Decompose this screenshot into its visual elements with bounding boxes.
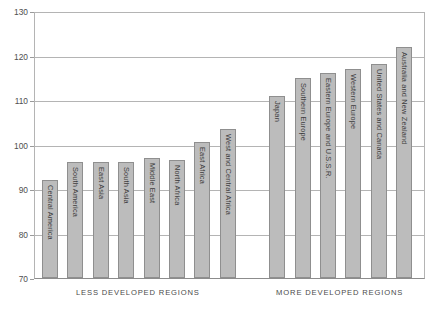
bar-label: Southern Europe — [299, 83, 306, 141]
bar[interactable]: South Asia — [118, 162, 134, 278]
bar[interactable]: Eastern Europe and U.S.S.R. — [320, 73, 336, 278]
bar-label: United States and Canada — [375, 69, 382, 159]
bar[interactable]: Middle East — [144, 158, 160, 278]
group-caption: MORE DEVELOPED REGIONS — [276, 288, 403, 297]
bar-label: Australia and New Zealand — [400, 52, 407, 145]
bar[interactable]: South America — [67, 162, 83, 278]
bar[interactable]: Japan — [269, 96, 285, 278]
bar-label: Eastern Europe and U.S.S.R. — [324, 78, 331, 179]
bar-label: North Africa — [173, 165, 180, 205]
bar[interactable]: North Africa — [169, 160, 185, 278]
y-tick-label: 100 — [6, 141, 28, 151]
bar-label: Japan — [273, 101, 280, 122]
bar[interactable]: East Asia — [93, 162, 109, 278]
bar[interactable]: Australia and New Zealand — [396, 47, 412, 278]
bar-label: West and Central Africa — [224, 134, 231, 215]
bar-label: South America — [72, 167, 79, 217]
y-tick-label: 90 — [6, 185, 28, 195]
y-tick-label: 70 — [6, 274, 28, 284]
bar-label: Western Europe — [350, 74, 357, 129]
bar-label: Central America — [46, 185, 53, 240]
plot-area: Central AmericaSouth AmericaEast AsiaSou… — [34, 12, 425, 279]
y-tick-label: 110 — [6, 96, 28, 106]
bar[interactable]: United States and Canada — [371, 64, 387, 278]
bar[interactable]: Central America — [42, 180, 58, 278]
bar[interactable]: Southern Europe — [295, 78, 311, 278]
y-tick-label: 130 — [6, 7, 28, 17]
group-caption: LESS DEVELOPED REGIONS — [76, 288, 200, 297]
bar-chart: 708090100110120130 Central AmericaSouth … — [0, 0, 433, 315]
bar-label: East Asia — [97, 167, 104, 199]
bar[interactable]: West and Central Africa — [220, 129, 236, 278]
bar-label: East Africa — [199, 147, 206, 184]
bar[interactable]: Western Europe — [345, 69, 361, 278]
y-tick-mark — [30, 279, 34, 280]
y-tick-label: 80 — [6, 230, 28, 240]
bar-label: Middle East — [148, 163, 155, 203]
bar[interactable]: East Africa — [194, 142, 210, 278]
gridline-110 — [35, 101, 424, 102]
gridline-130 — [35, 12, 424, 13]
gridline-120 — [35, 57, 424, 58]
y-tick-label: 120 — [6, 52, 28, 62]
bar-label: South Asia — [122, 167, 129, 204]
